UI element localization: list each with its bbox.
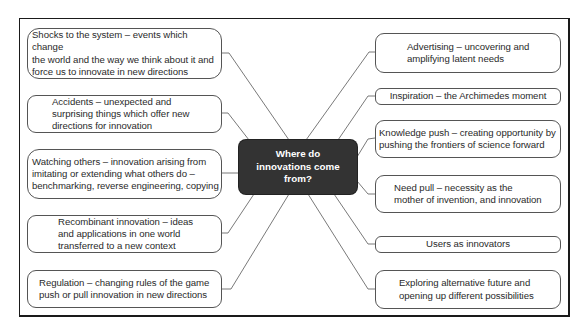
node-need-label: Need pull – necessity as the mother of i… — [394, 182, 542, 207]
node-users: Users as innovators — [375, 236, 561, 253]
node-shocks-label: Shocks to the system – events which chan… — [32, 29, 221, 78]
node-watching: Watching others – innovation arising fro… — [27, 149, 222, 199]
central-question-label: Where do innovations come from? — [256, 148, 339, 186]
node-advertising-label: Advertising – uncovering and amplifying … — [407, 41, 529, 66]
node-inspiration: Inspiration – the Archimedes moment — [375, 88, 561, 105]
node-inspiration-label: Inspiration – the Archimedes moment — [390, 90, 547, 102]
node-watching-label: Watching others – innovation arising fro… — [32, 156, 219, 193]
node-accidents-label: Accidents – unexpected and surprising th… — [52, 96, 189, 133]
node-regulation-label: Regulation – changing rules of the game … — [39, 277, 209, 302]
link-knowledge — [357, 138, 375, 157]
node-knowledge: Knowledge push – creating opportunity by… — [375, 120, 561, 158]
link-accidents — [221, 113, 249, 140]
link-shocks — [221, 53, 289, 140]
link-users — [334, 194, 375, 244]
node-regulation: Regulation – changing rules of the game … — [27, 270, 222, 308]
link-inspiration — [338, 96, 375, 140]
link-advertising — [306, 52, 375, 140]
node-shocks: Shocks to the system – events which chan… — [27, 28, 222, 79]
node-need: Need pull – necessity as the mother of i… — [375, 175, 561, 213]
central-question-node: Where do innovations come from? — [239, 140, 357, 194]
node-exploring-label: Exploring alternative future and opening… — [399, 277, 534, 302]
link-regulation — [221, 194, 289, 289]
link-recombinant — [221, 194, 254, 233]
node-knowledge-label: Knowledge push – creating opportunity by… — [379, 127, 556, 152]
node-exploring: Exploring alternative future and opening… — [375, 270, 561, 309]
link-exploring — [308, 194, 375, 289]
node-recombinant-label: Recombinant innovation – ideas and appli… — [58, 216, 193, 253]
node-users-label: Users as innovators — [426, 238, 510, 250]
node-accidents: Accidents – unexpected and surprising th… — [27, 95, 222, 133]
link-need — [357, 181, 375, 194]
node-recombinant: Recombinant innovation – ideas and appli… — [27, 215, 222, 253]
node-advertising: Advertising – uncovering and amplifying … — [375, 33, 561, 73]
